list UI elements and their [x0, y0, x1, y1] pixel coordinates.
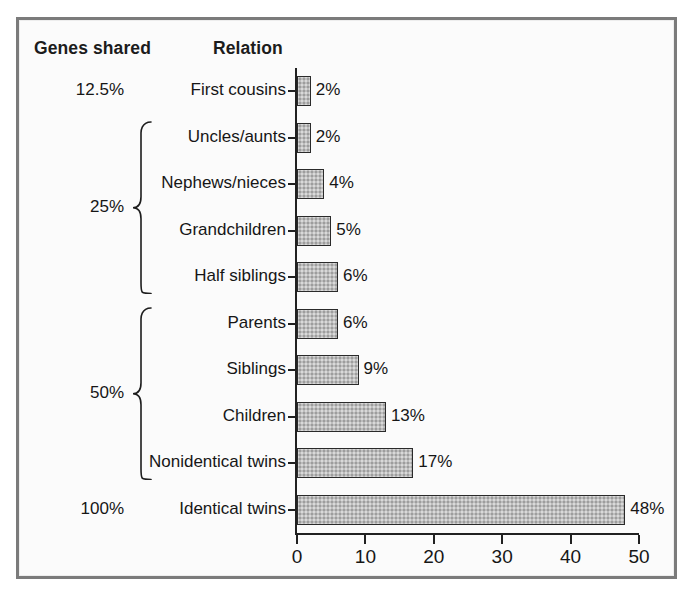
figure-root: Genes shared Relation First cousins2%Unc…	[0, 0, 694, 606]
chart-frame	[16, 17, 677, 579]
column-header-genes-shared: Genes shared	[34, 38, 151, 59]
column-header-relation: Relation	[213, 38, 283, 59]
